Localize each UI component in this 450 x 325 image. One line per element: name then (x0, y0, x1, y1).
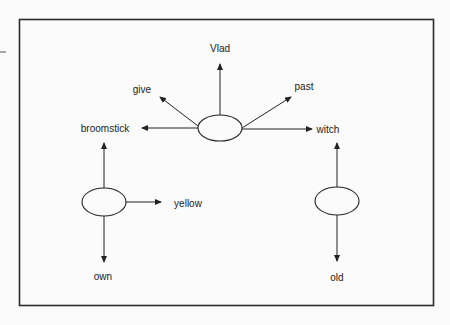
label-old: old (330, 272, 343, 283)
right-node (315, 187, 359, 215)
left-node (82, 188, 126, 216)
center-node (198, 115, 242, 141)
label-vlad: Vlad (210, 43, 230, 54)
diagram-frame (20, 20, 434, 306)
edge-center-to-past (242, 97, 291, 128)
label-broomstick: broomstick (81, 123, 130, 134)
edge-center-to-give (160, 97, 198, 126)
label-give: give (133, 84, 152, 95)
label-witch: witch (316, 124, 340, 135)
semantic-network-diagram: Vlad give past broomstick witch yellow o… (0, 0, 450, 325)
label-own: own (94, 271, 112, 282)
label-past: past (295, 81, 314, 92)
label-yellow: yellow (174, 198, 203, 209)
